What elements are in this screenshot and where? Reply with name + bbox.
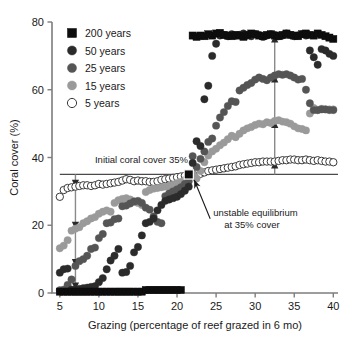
data-point xyxy=(185,183,192,190)
legend-label: 5 years xyxy=(85,97,119,109)
data-point xyxy=(103,266,110,273)
y-axis-title: Coral cover (%) xyxy=(8,119,20,195)
chart-canvas: 020406080510152025303540Grazing (percent… xyxy=(0,0,351,342)
annotation-initial-cover: Initial coral cover 35% xyxy=(95,154,188,165)
data-point xyxy=(330,106,337,113)
x-tick-label: 25 xyxy=(210,300,222,312)
coral-cover-scatter-figure: 020406080510152025303540Grazing (percent… xyxy=(0,0,351,342)
data-point xyxy=(189,159,196,166)
data-point xyxy=(146,206,153,213)
data-point xyxy=(68,276,75,283)
data-point xyxy=(212,40,219,47)
unstable-equilibrium-point xyxy=(184,170,193,179)
data-point xyxy=(298,75,305,82)
legend-marker xyxy=(67,98,76,107)
data-point xyxy=(197,142,204,149)
data-point xyxy=(193,175,200,182)
data-point xyxy=(208,135,215,142)
x-axis-title: Grazing (percentage of reef grazed in 6 … xyxy=(88,319,302,331)
data-point xyxy=(64,236,71,243)
data-point xyxy=(306,47,313,54)
data-point xyxy=(56,193,63,200)
equilibrium-label-line1: unstable equilibrium xyxy=(213,207,298,218)
legend: 200 years50 years25 years15 years5 years xyxy=(67,27,131,109)
data-point xyxy=(330,52,337,59)
x-tick-label: 40 xyxy=(327,300,339,312)
data-point xyxy=(212,122,219,129)
data-point xyxy=(201,96,208,103)
data-point xyxy=(126,262,133,269)
x-tick-label: 5 xyxy=(57,300,63,312)
legend-label: 50 years xyxy=(85,45,125,57)
x-tick-label: 30 xyxy=(249,300,261,312)
legend-label: 200 years xyxy=(85,27,131,39)
x-tick-label: 35 xyxy=(288,300,300,312)
equilibrium-pointer-arrow xyxy=(194,180,210,219)
data-point xyxy=(205,82,212,89)
data-point xyxy=(99,274,106,281)
annotation-unstable-equilibrium: unstable equilibriumat 35% cover xyxy=(194,180,298,230)
data-point xyxy=(111,252,118,259)
legend-marker xyxy=(67,81,76,90)
data-point xyxy=(138,232,145,239)
data-point xyxy=(314,61,321,68)
legend-marker xyxy=(67,46,76,55)
legend-marker xyxy=(67,63,76,72)
data-point xyxy=(197,155,204,162)
data-point xyxy=(158,220,165,227)
series-15-years xyxy=(56,104,337,252)
up-arrow-track xyxy=(271,35,278,175)
data-point xyxy=(115,245,122,252)
data-point xyxy=(330,35,337,42)
data-point xyxy=(189,152,196,159)
data-point xyxy=(99,230,106,237)
data-point xyxy=(232,98,239,105)
data-point xyxy=(306,100,313,107)
axes: 020406080510152025303540Grazing (percent… xyxy=(8,16,339,331)
data-point xyxy=(302,127,309,134)
initial-cover-label: Initial coral cover 35% xyxy=(95,154,188,165)
y-tick-label: 40 xyxy=(32,152,44,164)
legend-label: 25 years xyxy=(85,62,125,74)
data-point xyxy=(330,159,337,166)
y-tick-label: 80 xyxy=(32,16,44,28)
data-point xyxy=(64,265,71,272)
legend-label: 15 years xyxy=(85,80,125,92)
data-point xyxy=(107,208,114,215)
data-point xyxy=(150,215,157,222)
y-tick-label: 60 xyxy=(32,84,44,96)
data-point xyxy=(134,243,141,250)
x-tick-label: 15 xyxy=(132,300,144,312)
x-tick-label: 10 xyxy=(93,300,105,312)
data-point xyxy=(115,215,122,222)
data-point xyxy=(310,54,317,61)
data-point xyxy=(208,52,215,59)
legend-marker xyxy=(67,28,76,37)
y-tick-label: 0 xyxy=(38,287,44,299)
data-point xyxy=(83,252,90,259)
data-point xyxy=(302,86,309,93)
y-tick-label: 20 xyxy=(32,219,44,231)
data-point xyxy=(177,286,184,293)
equilibrium-label-line2: at 35% cover xyxy=(224,219,279,230)
equilibrium-marker xyxy=(184,170,193,179)
x-tick-label: 20 xyxy=(171,300,183,312)
data-point xyxy=(91,244,98,251)
